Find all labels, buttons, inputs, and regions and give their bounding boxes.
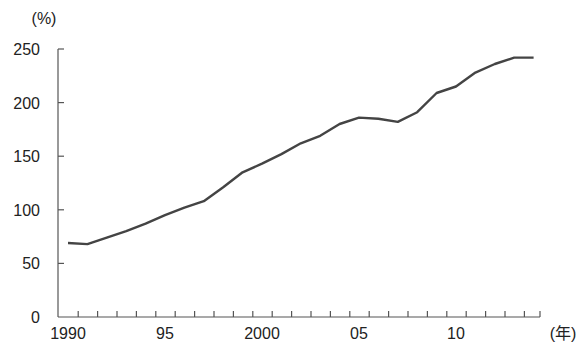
x-tick-label: 05 xyxy=(350,325,368,342)
y-tick-label: 100 xyxy=(13,202,40,219)
x-tick-label: 10 xyxy=(447,325,465,342)
y-tick-label: 250 xyxy=(13,41,40,58)
y-tick-label: 0 xyxy=(31,309,40,326)
x-axis: 19909520000510 xyxy=(50,311,540,342)
x-tick-label: 2000 xyxy=(244,325,280,342)
plot-area xyxy=(68,58,534,245)
y-axis: 050100150200250 xyxy=(13,41,64,326)
line-chart: 050100150200250 19909520000510 (%) (年) xyxy=(0,0,580,363)
x-tick-label: 95 xyxy=(156,325,174,342)
data-line xyxy=(68,58,534,245)
y-axis-unit-label: (%) xyxy=(32,10,57,27)
y-tick-label: 150 xyxy=(13,148,40,165)
x-tick-label: 1990 xyxy=(50,325,86,342)
x-axis-unit-label: (年) xyxy=(550,325,577,342)
y-tick-label: 50 xyxy=(22,255,40,272)
y-tick-label: 200 xyxy=(13,95,40,112)
